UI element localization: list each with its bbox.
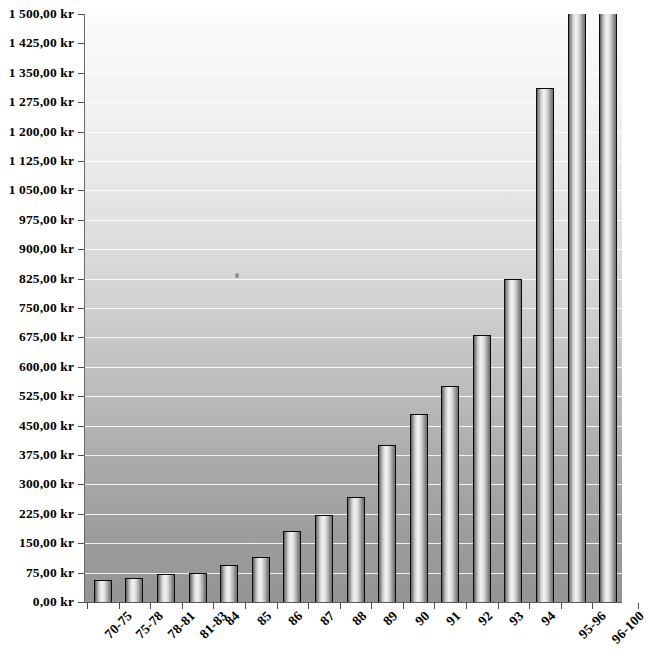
x-axis-line (84, 602, 622, 603)
x-tick-label: 94 (538, 608, 559, 629)
gridline (85, 73, 622, 74)
x-tick-label: 92 (475, 608, 496, 629)
y-tick-mark (78, 249, 84, 250)
y-tick-label: 975,00 kr (19, 212, 74, 228)
x-tick-mark (638, 603, 639, 609)
x-tick-label: 93 (507, 608, 528, 629)
x-tick-mark (308, 603, 309, 609)
x-tick-label: 84 (222, 608, 243, 629)
y-tick-mark (78, 279, 84, 280)
bar (157, 574, 175, 602)
x-tick-label: 86 (285, 608, 306, 629)
y-axis: 1 500,00 kr1 425,00 kr1 350,00 kr1 275,0… (0, 0, 82, 610)
y-tick-mark (78, 484, 84, 485)
bar (504, 279, 522, 602)
y-tick-label: 1 125,00 kr (9, 153, 74, 169)
bar (536, 88, 554, 602)
x-tick-mark (150, 603, 151, 609)
bar (410, 414, 428, 602)
y-tick-label: 1 425,00 kr (9, 35, 74, 51)
x-tick-label: 88 (349, 608, 370, 629)
y-tick-mark (78, 337, 84, 338)
y-tick-mark (78, 132, 84, 133)
bar (94, 580, 112, 602)
bar (189, 573, 207, 602)
y-tick-mark (78, 220, 84, 221)
y-tick-label: 375,00 kr (19, 447, 74, 463)
bar (315, 515, 333, 602)
gridline (85, 43, 622, 44)
y-tick-mark (78, 514, 84, 515)
y-tick-mark (78, 161, 84, 162)
y-tick-mark (78, 367, 84, 368)
x-tick-label: 95-96 (575, 608, 609, 642)
x-tick-label: 89 (380, 608, 401, 629)
x-tick-mark (277, 603, 278, 609)
y-tick-label: 1 050,00 kr (9, 182, 74, 198)
y-tick-mark (78, 73, 84, 74)
bar (220, 565, 238, 602)
x-tick-mark (561, 603, 562, 609)
y-tick-label: 525,00 kr (19, 388, 74, 404)
y-tick-mark (78, 102, 84, 103)
y-tick-label: 1 500,00 kr (9, 6, 74, 22)
y-tick-mark (78, 190, 84, 191)
x-tick-label: 75-78 (133, 608, 167, 642)
x-tick-label: 85 (254, 608, 275, 629)
x-tick-mark (592, 603, 593, 609)
bar (252, 557, 270, 602)
y-tick-label: 900,00 kr (19, 241, 74, 257)
y-tick-label: 1 200,00 kr (9, 124, 74, 140)
x-tick-mark (340, 603, 341, 609)
bar (441, 386, 459, 602)
bar (378, 445, 396, 602)
y-tick-mark (78, 455, 84, 456)
x-tick-mark (182, 603, 183, 609)
x-tick-label: 91 (443, 608, 464, 629)
bar (473, 335, 491, 602)
y-tick-mark (78, 426, 84, 427)
x-tick-mark (498, 603, 499, 609)
y-tick-mark (78, 396, 84, 397)
y-tick-mark (78, 602, 84, 603)
y-tick-label: 1 350,00 kr (9, 65, 74, 81)
x-tick-mark (371, 603, 372, 609)
x-tick-mark (245, 603, 246, 609)
y-tick-label: 825,00 kr (19, 271, 74, 287)
gridline (85, 14, 622, 15)
y-tick-mark (78, 308, 84, 309)
bar (347, 497, 365, 602)
x-tick-mark (529, 603, 530, 609)
x-tick-mark (434, 603, 435, 609)
y-tick-label: 1 275,00 kr (9, 94, 74, 110)
x-tick-mark (466, 603, 467, 609)
x-tick-label: 96-100 (609, 608, 648, 647)
y-tick-label: 300,00 kr (19, 476, 74, 492)
x-tick-label: 87 (317, 608, 338, 629)
bar (125, 578, 143, 602)
y-tick-mark (78, 14, 84, 15)
y-tick-mark (78, 543, 84, 544)
y-tick-mark (78, 43, 84, 44)
y-tick-label: 225,00 kr (19, 506, 74, 522)
x-tick-mark (403, 603, 404, 609)
x-tick-label: 70-75 (101, 608, 135, 642)
x-tick-label: 78-81 (164, 608, 198, 642)
bar (599, 14, 617, 602)
y-tick-mark (78, 573, 84, 574)
x-tick-mark (87, 603, 88, 609)
y-tick-label: 450,00 kr (19, 418, 74, 434)
plot-area (85, 14, 622, 602)
y-tick-label: 150,00 kr (19, 535, 74, 551)
x-tick-mark (213, 603, 214, 609)
y-tick-label: 675,00 kr (19, 329, 74, 345)
bar (568, 14, 586, 602)
x-tick-label: 90 (412, 608, 433, 629)
x-axis: 70-7575-7878-8181-8384858687888990919293… (0, 608, 632, 665)
y-tick-label: 600,00 kr (19, 359, 74, 375)
bar (283, 531, 301, 602)
x-tick-mark (119, 603, 120, 609)
image-artifact-speck (235, 273, 239, 278)
y-tick-label: 75,00 kr (26, 565, 74, 581)
